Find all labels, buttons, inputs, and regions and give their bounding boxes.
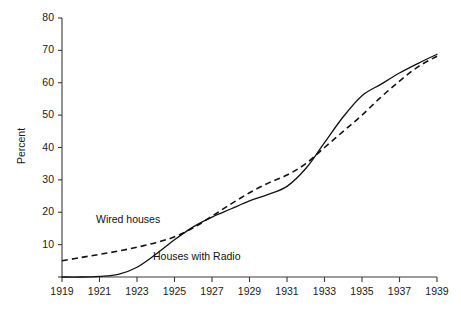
y-axis-tick-label: 80 — [20, 11, 54, 23]
series-line-houses-with-radio — [62, 54, 437, 277]
y-axis-tick-label: 50 — [20, 108, 54, 120]
series-annotation-wired-houses: Wired houses — [96, 213, 160, 225]
x-axis-ticks — [62, 277, 437, 282]
axis-lines — [62, 18, 437, 277]
y-axis-tick-label: 60 — [20, 76, 54, 88]
x-axis-tick-label: 1939 — [415, 285, 459, 297]
y-axis-tick-label: 20 — [20, 205, 54, 217]
series-annotation-houses-with-radio: Houses with Radio — [153, 250, 241, 262]
y-axis-tick-label: 30 — [20, 173, 54, 185]
radio-adoption-line-chart: Percent 1020304050607080 191919211923192… — [0, 0, 461, 317]
y-axis-tick-label: 10 — [20, 238, 54, 250]
series-line-wired-houses — [62, 56, 437, 261]
y-axis-tick-label: 40 — [20, 141, 54, 153]
y-axis-tick-label: 70 — [20, 43, 54, 55]
y-axis-ticks — [58, 18, 62, 277]
plot-area — [0, 0, 461, 317]
